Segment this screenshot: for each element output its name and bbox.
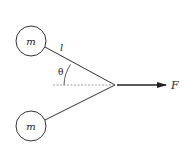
force-label: F	[170, 79, 179, 92]
top-mass-label: m	[26, 36, 35, 47]
angle-arc	[64, 65, 71, 86]
bottom-string	[45, 85, 115, 120]
bottom-mass-label: m	[26, 121, 35, 132]
length-label: l	[60, 42, 63, 53]
bottom-mass: m	[16, 111, 46, 141]
top-mass: m	[16, 26, 46, 56]
top-string	[45, 47, 115, 85]
two-mass-force-diagram: m m l θ F	[0, 0, 189, 159]
angle-label: θ	[58, 67, 63, 77]
